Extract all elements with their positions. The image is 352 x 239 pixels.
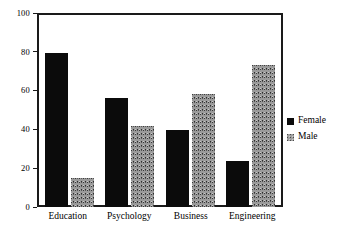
y-axis-tick-label: 20 bbox=[21, 164, 33, 173]
bar-female-psychology[interactable] bbox=[105, 98, 128, 207]
bar-female-education[interactable] bbox=[45, 53, 68, 207]
y-axis-tick-label: 0 bbox=[26, 203, 33, 212]
y-axis-tick-mark bbox=[33, 13, 37, 14]
x-axis-label-psychology: Psychology bbox=[99, 211, 161, 221]
y-axis-tick-mark bbox=[33, 207, 37, 208]
x-axis-label-business: Business bbox=[160, 211, 222, 221]
legend-label: Male bbox=[298, 132, 318, 142]
legend-item-female[interactable]: Female bbox=[287, 116, 349, 126]
bar-group bbox=[39, 15, 100, 207]
bar-group bbox=[100, 15, 161, 207]
y-axis-tick-mark bbox=[33, 168, 37, 169]
bar-male-psychology[interactable] bbox=[131, 126, 154, 207]
female-swatch-icon bbox=[287, 118, 294, 125]
x-axis-labels: EducationPsychologyBusinessEngineering bbox=[37, 209, 283, 231]
chart-legend: FemaleMale bbox=[287, 116, 349, 148]
grouped-bar-chart: 020406080100 EducationPsychologyBusiness… bbox=[0, 0, 352, 239]
y-axis-tick-label: 40 bbox=[21, 125, 33, 134]
bar-male-education[interactable] bbox=[71, 178, 94, 207]
legend-item-male[interactable]: Male bbox=[287, 132, 349, 142]
legend-label: Female bbox=[298, 116, 326, 126]
y-axis-tick-label: 100 bbox=[17, 9, 33, 18]
y-axis: 020406080100 bbox=[0, 13, 37, 207]
x-axis-label-education: Education bbox=[37, 211, 99, 221]
x-axis-label-engineering: Engineering bbox=[222, 211, 284, 221]
bar-group bbox=[160, 15, 221, 207]
bar-male-engineering[interactable] bbox=[252, 65, 275, 207]
y-axis-tick-label: 80 bbox=[21, 48, 33, 57]
y-axis-tick-mark bbox=[33, 51, 37, 52]
bar-male-business[interactable] bbox=[192, 94, 215, 207]
bar-female-business[interactable] bbox=[166, 130, 189, 207]
bar-female-engineering[interactable] bbox=[226, 161, 249, 207]
bars-area bbox=[39, 15, 281, 207]
bar-group bbox=[221, 15, 282, 207]
y-axis-tick-mark bbox=[33, 129, 37, 130]
male-swatch-icon bbox=[287, 134, 294, 141]
y-axis-tick-label: 60 bbox=[21, 86, 33, 95]
y-axis-tick-mark bbox=[33, 90, 37, 91]
